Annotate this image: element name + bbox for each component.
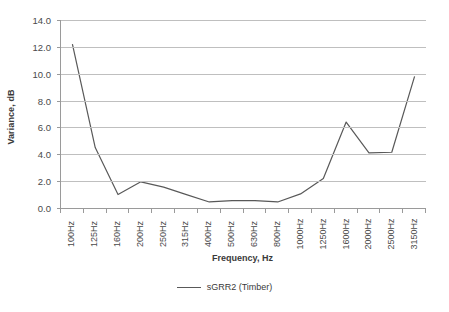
y-tick-mark-12.0 — [57, 47, 61, 48]
legend-entry-label: sGRR2 (Timber) — [207, 282, 273, 292]
x-tick-label-250hz: 250Hz — [157, 213, 169, 251]
x-tick-label-400hz: 400Hz — [202, 213, 214, 251]
x-tick-label-800hz: 800Hz — [271, 213, 283, 251]
x-tick-label-315hz: 315Hz — [179, 213, 191, 251]
y-tick-mark-2.0 — [57, 181, 61, 182]
series-polyline — [72, 44, 414, 202]
x-tick-label-text: 3150Hz — [409, 218, 419, 249]
gridline-14.0 — [61, 20, 426, 21]
x-tick-label-125hz: 125Hz — [88, 213, 100, 251]
x-tick-mark — [425, 208, 426, 213]
x-tick-label-text: 315Hz — [180, 221, 190, 247]
x-tick-label-2000hz: 2000Hz — [362, 213, 374, 251]
x-tick-label-text: 500Hz — [226, 221, 236, 247]
gridline-2.0 — [61, 181, 426, 182]
gridline-8.0 — [61, 101, 426, 102]
y-axis-title: Variance, dB — [0, 62, 22, 172]
x-tick-label-text: 2500Hz — [386, 218, 396, 249]
y-tick-label-6.0: 6.0 — [38, 122, 51, 133]
gridline-12.0 — [61, 47, 426, 48]
y-tick-mark-6.0 — [57, 127, 61, 128]
x-axis-tick-labels: 100Hz125Hz160Hz200Hz250Hz315Hz400Hz500Hz… — [60, 213, 425, 253]
x-tick-label-1000hz: 1000Hz — [294, 213, 306, 251]
x-tick-label-text: 1000Hz — [295, 218, 305, 249]
x-tick-label-160hz: 160Hz — [111, 213, 123, 251]
x-tick-label-3150hz: 3150Hz — [408, 213, 420, 251]
y-axis-title-label: Variance, dB — [6, 89, 16, 144]
x-tick-label-text: 400Hz — [203, 221, 213, 247]
x-tick-label-text: 2000Hz — [363, 218, 373, 249]
y-tick-label-0.0: 0.0 — [38, 203, 51, 214]
x-tick-label-text: 250Hz — [158, 221, 168, 247]
y-tick-label-8.0: 8.0 — [38, 95, 51, 106]
x-tick-label-text: 200Hz — [135, 221, 145, 247]
y-tick-mark-10.0 — [57, 74, 61, 75]
y-tick-mark-14.0 — [57, 20, 61, 21]
legend-line-swatch — [177, 287, 201, 288]
y-tick-label-12.0: 12.0 — [33, 41, 52, 52]
x-tick-label-text: 1250Hz — [317, 218, 327, 249]
gridline-6.0 — [61, 127, 426, 128]
x-tick-label-text: 630Hz — [249, 221, 259, 247]
y-tick-mark-4.0 — [57, 154, 61, 155]
x-tick-label-630hz: 630Hz — [248, 213, 260, 251]
x-tick-label-500hz: 500Hz — [225, 213, 237, 251]
x-tick-label-2500hz: 2500Hz — [385, 213, 397, 251]
y-tick-label-14.0: 14.0 — [33, 15, 52, 26]
x-tick-label-text: 800Hz — [272, 221, 282, 247]
x-tick-label-text: 100Hz — [66, 221, 76, 247]
x-tick-label-1600hz: 1600Hz — [339, 213, 351, 251]
gridline-10.0 — [61, 74, 426, 75]
x-axis-title: Frequency, Hz — [60, 253, 425, 263]
y-axis-tick-labels: 0.02.04.06.08.010.012.014.0 — [22, 0, 55, 312]
x-tick-label-text: 1600Hz — [340, 218, 350, 249]
gridline-4.0 — [61, 154, 426, 155]
plot-area — [60, 20, 426, 208]
y-tick-mark-8.0 — [57, 101, 61, 102]
y-tick-label-4.0: 4.0 — [38, 149, 51, 160]
x-tick-label-100hz: 100Hz — [65, 213, 77, 251]
y-tick-label-10.0: 10.0 — [33, 68, 52, 79]
variance-vs-frequency-line-chart: Variance, dB 0.02.04.06.08.010.012.014.0… — [0, 0, 449, 312]
x-tick-label-text: 125Hz — [89, 221, 99, 247]
series-line-sgrr2-timber — [61, 20, 426, 208]
x-tick-label-200hz: 200Hz — [134, 213, 146, 251]
y-tick-label-2.0: 2.0 — [38, 176, 51, 187]
x-tick-label-1250hz: 1250Hz — [316, 213, 328, 251]
chart-legend: sGRR2 (Timber) — [0, 282, 449, 292]
x-tick-label-text: 160Hz — [112, 221, 122, 247]
